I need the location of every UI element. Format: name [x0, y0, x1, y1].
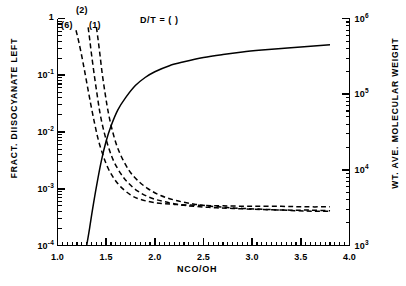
- x-tick-label: 1.0: [46, 252, 70, 262]
- chart-figure: FRACT. DIISOCYANATE LEFT WT. AVE. MOLECU…: [0, 0, 406, 286]
- x-tick-label: 2.0: [143, 252, 167, 262]
- y-right-tick-label: 103: [355, 239, 385, 251]
- y-left-tick-label: 10-2: [16, 125, 54, 137]
- curve-label-2: (2): [76, 5, 88, 15]
- curve-label-1: (1): [89, 20, 101, 30]
- y-right-axis-title: WT. AVE. MOLECULAR WEIGHT: [390, 23, 400, 203]
- x-tick-label: 4.0: [338, 252, 362, 262]
- x-tick-label: 1.5: [94, 252, 118, 262]
- y-right-tick-label: 104: [355, 163, 385, 175]
- x-axis-title: NCO/OH: [177, 264, 217, 274]
- y-left-tick-label: 10-3: [16, 182, 54, 194]
- x-tick-label: 3.5: [289, 252, 313, 262]
- y-right-tick-label: 105: [355, 87, 385, 99]
- chart-plot-area: [0, 0, 406, 286]
- x-tick-label: 2.5: [192, 252, 216, 262]
- y-left-tick-label: 10-4: [16, 239, 54, 251]
- y-left-tick-label: 1: [16, 12, 54, 22]
- x-tick-label: 3.0: [240, 252, 264, 262]
- annotation-dt: D/T = ( ): [140, 15, 179, 25]
- curve-label-6: (6): [61, 20, 73, 30]
- y-left-tick-label: 10-1: [16, 68, 54, 80]
- y-right-tick-label: 106: [355, 12, 385, 24]
- y-left-axis-title: FRACT. DIISOCYANATE LEFT: [9, 28, 19, 188]
